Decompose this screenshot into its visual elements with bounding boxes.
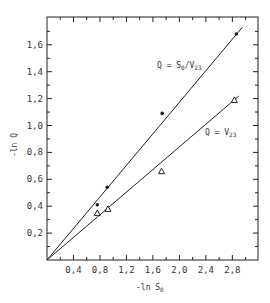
data-point-triangle [94, 210, 100, 216]
y-tick-label: 1,0 [27, 121, 43, 131]
y-tick-label: 1,4 [27, 67, 43, 77]
data-point-circle [105, 186, 109, 190]
x-tick-label: 2,0 [171, 265, 187, 275]
y-tick-label: 1,2 [27, 94, 43, 104]
chart: 0,40,81,21,62,02,42,80,20,40,60,81,01,21… [0, 0, 270, 303]
x-tick-label: 1,2 [118, 265, 134, 275]
y-tick-label: 0,2 [27, 228, 43, 238]
x-tick-label: 1,6 [145, 265, 161, 275]
annotation-v23: Q = V23 [205, 128, 237, 138]
x-tick-label: 2,4 [198, 265, 214, 275]
y-tick-label: 0,6 [27, 174, 43, 184]
data-point-triangle [159, 168, 165, 174]
x-tick-label: 2,8 [224, 265, 240, 275]
annotation-s0-v23: Q = S0/V23 [157, 61, 202, 71]
axis-ticks [47, 17, 258, 260]
data-points [94, 32, 238, 215]
data-point-circle [235, 32, 239, 36]
plot-frame [47, 17, 258, 260]
data-point-circle [160, 112, 164, 116]
x-tick-label: 0,8 [92, 265, 108, 275]
y-tick-label: 0,8 [27, 147, 43, 157]
fit-lines [47, 27, 242, 260]
y-axis-label: -ln Q [10, 133, 19, 157]
fit-line [47, 27, 242, 260]
x-axis-label: -ln S0 [136, 283, 164, 293]
data-point-circle [96, 203, 100, 207]
y-tick-label: 0,4 [27, 201, 43, 211]
x-tick-label: 0,4 [65, 265, 81, 275]
fit-line [47, 96, 239, 260]
y-tick-label: 1,6 [27, 40, 43, 50]
